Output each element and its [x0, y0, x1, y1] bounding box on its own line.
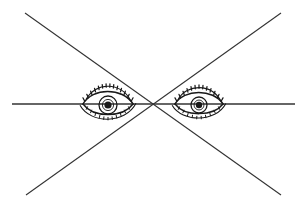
left-eye-lash	[98, 86, 99, 89]
right-eye-lash	[206, 87, 207, 90]
right-eye-lower-lash	[210, 113, 211, 116]
figure-container: Two eyes with converging sight lines Lin…	[0, 0, 306, 208]
right-eye-pupil	[196, 102, 202, 108]
left-eye-lash	[117, 86, 118, 89]
line-drawing-canvas	[0, 0, 306, 208]
right-eye-lash	[191, 87, 192, 90]
right-eye-lower-lash	[188, 113, 189, 116]
right-eye-lash	[210, 89, 211, 92]
left-eye-pupil	[104, 101, 111, 108]
right-eye-lash	[187, 89, 188, 92]
left-eye-lower-lash	[99, 115, 100, 118]
